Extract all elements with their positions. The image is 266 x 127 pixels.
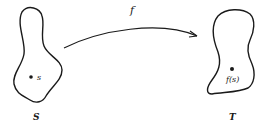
arrow-label-f: f (130, 5, 134, 16)
point-s (29, 75, 33, 79)
point-f-of-s (230, 67, 234, 71)
element-label-s: s (37, 74, 41, 82)
set-label-t: T (229, 113, 236, 122)
set-label-s: S (33, 113, 40, 122)
set-s-region (14, 8, 62, 102)
function-mapping-diagram: f s f(s) S T (0, 0, 266, 127)
element-label-f-of-s: f(s) (226, 76, 239, 84)
mapping-arrow (64, 28, 197, 48)
diagram-canvas (0, 0, 266, 127)
